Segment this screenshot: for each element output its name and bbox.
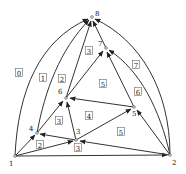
node-6 <box>65 97 68 100</box>
node-1 <box>14 155 17 158</box>
face-label-text: 3 <box>57 118 61 126</box>
edge-1-to-3 <box>15 141 73 156</box>
node-label-1: 1 <box>9 160 13 168</box>
face-label: 6 <box>135 88 142 97</box>
face-label-text: 3 <box>76 145 80 153</box>
edge-1-to-2 <box>15 155 167 156</box>
face-label: 4 <box>86 112 93 121</box>
node-2 <box>169 154 172 157</box>
face-label: 3 <box>86 47 93 56</box>
face-label-text: 3 <box>87 48 91 56</box>
face-label: 7 <box>133 61 140 70</box>
nodes-group: 12345678 <box>9 10 176 168</box>
edge-5-to-6 <box>70 98 134 107</box>
face-label-text: 7 <box>134 62 138 70</box>
face-label: 2 <box>37 141 44 150</box>
edges-group <box>15 19 170 156</box>
face-label: 3 <box>56 117 63 126</box>
graph-diagram: 12345678 012375643523 <box>0 0 186 174</box>
node-5 <box>133 106 136 109</box>
node-label-8: 8 <box>95 10 99 18</box>
node-label-5: 5 <box>132 110 136 118</box>
face-label-text: 6 <box>136 89 141 97</box>
face-label: 5 <box>118 128 125 137</box>
node-label-7: 7 <box>98 40 102 48</box>
face-label: 1 <box>40 74 47 83</box>
node-4 <box>36 132 39 135</box>
face-label: 2 <box>59 75 66 84</box>
edge-3-to-6 <box>67 102 76 140</box>
node-7 <box>105 47 108 50</box>
face-label: 5 <box>100 80 107 89</box>
node-label-3: 3 <box>76 128 80 136</box>
node-label-6: 6 <box>58 88 63 96</box>
node-label-4: 4 <box>29 125 34 133</box>
face-label: 0 <box>16 69 23 78</box>
node-8 <box>91 16 94 19</box>
face-label-text: 5 <box>101 81 105 89</box>
edge-1-to-4 <box>15 135 35 156</box>
face-label-text: 2 <box>38 142 42 150</box>
node-label-2: 2 <box>172 159 176 167</box>
face-label-text: 0 <box>17 70 21 78</box>
edge-2-to-5 <box>137 110 170 155</box>
edge-2-to-3 <box>80 141 170 155</box>
face-label-text: 5 <box>119 129 123 137</box>
edge-5-to-7 <box>107 52 134 107</box>
face-label-text: 1 <box>41 75 45 83</box>
face-label: 3 <box>75 144 82 153</box>
node-3 <box>75 139 78 142</box>
face-label-text: 4 <box>87 113 92 121</box>
face-label-text: 2 <box>60 76 64 84</box>
edge-3-to-4 <box>40 134 76 140</box>
edge-6-to-7 <box>66 51 103 98</box>
